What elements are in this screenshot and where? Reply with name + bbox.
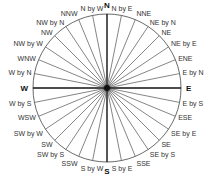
label-ne-by-n: NE by N xyxy=(150,19,176,27)
label-sw: SW xyxy=(41,141,53,148)
label-ssw: SSW xyxy=(62,160,78,167)
label-ene: ENE xyxy=(178,55,193,62)
label-e: E xyxy=(186,84,192,93)
label-e-by-n: E by N xyxy=(183,69,204,77)
ray-sw xyxy=(55,88,107,140)
label-s: S xyxy=(104,167,110,176)
label-ne-by-e: NE by E xyxy=(171,40,197,48)
ray-se xyxy=(107,88,159,140)
label-s-by-w: S by W xyxy=(81,165,104,173)
label-ese: ESE xyxy=(178,114,192,121)
label-ne: NE xyxy=(161,29,171,36)
ray-nw xyxy=(55,36,107,88)
label-nne: NNE xyxy=(136,10,151,17)
label-nw: NW xyxy=(41,29,53,36)
label-e-by-s: E by S xyxy=(183,100,204,108)
label-w: W xyxy=(20,84,28,93)
label-n: N xyxy=(104,1,110,10)
label-se-by-e: SE by E xyxy=(171,130,197,138)
label-w-by-n: W by N xyxy=(9,69,32,77)
label-nnw: NNW xyxy=(61,10,78,17)
label-n-by-e: N by E xyxy=(112,5,133,13)
label-wsw: WSW xyxy=(18,114,36,121)
label-sw-by-w: SW by W xyxy=(14,130,44,138)
label-w-by-s: W by S xyxy=(9,100,32,108)
label-s-by-e: S by E xyxy=(112,165,133,173)
ray-ne xyxy=(107,36,159,88)
label-se-by-s: SE by S xyxy=(150,151,176,159)
label-nw-by-n: NW by N xyxy=(36,19,64,27)
label-nw-by-w: NW by W xyxy=(13,40,43,48)
label-sw-by-s: SW by S xyxy=(37,151,65,159)
label-sse: SSE xyxy=(136,160,150,167)
label-se: SE xyxy=(161,141,171,148)
label-wnw: WNW xyxy=(18,55,37,62)
compass-center-hub xyxy=(104,85,110,91)
label-n-by-w: N by W xyxy=(81,5,104,13)
compass-rose: NN by ENNENE by NNENE by EENEE by NEE by… xyxy=(0,0,214,178)
